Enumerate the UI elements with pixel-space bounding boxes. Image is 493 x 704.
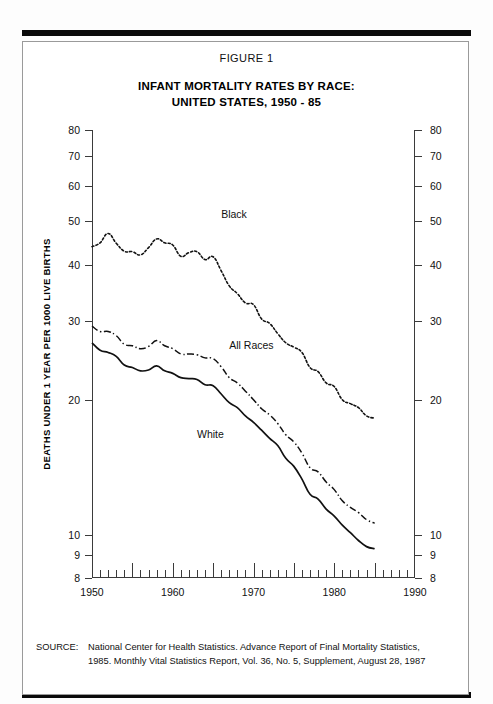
x-tick-label-1980: 1980 [323, 586, 346, 598]
y-tick-left-70 [85, 156, 92, 157]
y-tick-label-left-60: 60 [68, 181, 80, 192]
y-tick-label-right-70: 70 [430, 151, 442, 162]
plot-area: 807060504030201098 807060504030201098 19… [92, 130, 415, 578]
y-tick-right-70 [415, 156, 422, 157]
y-tick-label-right-9: 9 [430, 550, 436, 561]
source-note: SOURCE: National Center for Health Stati… [36, 640, 461, 668]
source-line-2: 1985. Monthly Vital Statistics Report, V… [88, 654, 461, 668]
y-tick-label-left-9: 9 [74, 550, 80, 561]
y-tick-left-10 [85, 535, 92, 536]
y-tick-label-left-40: 40 [68, 260, 80, 271]
y-tick-left-80 [85, 130, 92, 131]
y-axis-title: DEATHS UNDER 1 YEAR PER 1000 LIVE BIRTHS [41, 238, 52, 469]
y-tick-label-left-10: 10 [68, 530, 80, 541]
figure-page: FIGURE 1 INFANT MORTALITY RATES BY RACE:… [0, 0, 493, 704]
y-tick-left-20 [85, 400, 92, 401]
y-tick-label-left-50: 50 [68, 216, 80, 227]
y-tick-left-30 [85, 321, 92, 322]
y-tick-label-right-40: 40 [430, 260, 442, 271]
y-tick-right-30 [415, 321, 422, 322]
y-tick-right-8 [415, 578, 422, 579]
y-tick-right-60 [415, 186, 422, 187]
source-line-1: National Center for Health Statistics. A… [88, 640, 461, 654]
source-key: SOURCE: [36, 640, 88, 654]
y-tick-left-60 [85, 186, 92, 187]
figure-title-line2: UNITED STATES, 1950 - 85 [0, 96, 493, 108]
y-tick-right-10 [415, 535, 422, 536]
y-tick-left-8 [85, 578, 92, 579]
y-tick-label-right-50: 50 [430, 216, 442, 227]
y-tick-label-left-20: 20 [68, 395, 80, 406]
x-tick-label-1960: 1960 [161, 586, 184, 598]
y-tick-label-right-10: 10 [430, 530, 442, 541]
top-rule [22, 30, 471, 36]
y-tick-label-left-80: 80 [68, 125, 80, 136]
series-label-all-races: All Races [229, 339, 273, 351]
series-curves [92, 130, 415, 578]
figure-title-line1: INFANT MORTALITY RATES BY RACE: [0, 80, 493, 92]
y-tick-label-right-20: 20 [430, 395, 442, 406]
y-tick-right-20 [415, 400, 422, 401]
y-tick-label-right-60: 60 [430, 181, 442, 192]
y-tick-left-40 [85, 265, 92, 266]
x-tick-label-1950: 1950 [80, 586, 103, 598]
y-tick-label-left-70: 70 [68, 151, 80, 162]
y-tick-right-9 [415, 555, 422, 556]
x-tick-label-1990: 1990 [403, 586, 426, 598]
y-tick-label-left-30: 30 [68, 316, 80, 327]
series-line-white [92, 343, 375, 549]
y-tick-label-left-8: 8 [74, 573, 80, 584]
series-label-black: Black [221, 208, 247, 220]
y-tick-label-right-30: 30 [430, 316, 442, 327]
series-line-black [92, 233, 375, 418]
y-tick-right-50 [415, 221, 422, 222]
y-tick-left-9 [85, 555, 92, 556]
series-line-all-races [92, 326, 375, 523]
y-tick-left-50 [85, 221, 92, 222]
y-tick-right-80 [415, 130, 422, 131]
y-tick-label-right-80: 80 [430, 125, 442, 136]
figure-label: FIGURE 1 [0, 52, 493, 64]
y-tick-right-40 [415, 265, 422, 266]
series-label-white: White [197, 428, 224, 440]
x-tick-label-1970: 1970 [242, 586, 265, 598]
y-tick-label-right-8: 8 [430, 573, 436, 584]
